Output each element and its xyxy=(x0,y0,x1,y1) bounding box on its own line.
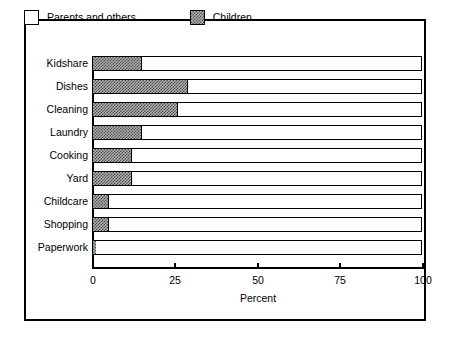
bar-track-parents xyxy=(92,240,422,255)
bar-track-parents xyxy=(92,194,422,209)
bar-segment-children xyxy=(93,126,142,139)
x-tick-mark-25 xyxy=(174,263,176,269)
bar-track-parents xyxy=(92,56,422,71)
x-axis-title: Percent xyxy=(92,292,424,304)
bar-segment-children xyxy=(93,57,142,70)
legend-label-parents: Parents and others xyxy=(47,12,136,23)
bar-segment-children xyxy=(93,149,132,162)
plot-area xyxy=(92,56,422,265)
x-axis-ticks: 0 25 50 75 100 xyxy=(92,269,424,291)
bar-track-parents xyxy=(92,171,422,186)
y-label-paperwork: Paperwork xyxy=(18,240,88,255)
y-label-yard: Yard xyxy=(18,171,88,186)
y-label-laundry: Laundry xyxy=(18,125,88,140)
y-label-cooking: Cooking xyxy=(18,148,88,163)
bar-segment-children xyxy=(93,80,188,93)
bar-row xyxy=(92,56,422,71)
legend-label-children: Children xyxy=(213,12,252,23)
bar-track-parents xyxy=(92,217,422,232)
x-tick-label-50: 50 xyxy=(252,274,264,286)
y-label-cleaning: Cleaning xyxy=(18,102,88,117)
x-tick-label-0: 0 xyxy=(90,274,96,286)
x-tick-label-100: 100 xyxy=(414,274,432,286)
bar-segment-children xyxy=(93,195,109,208)
legend-swatch-children-icon xyxy=(190,10,205,25)
bar-row xyxy=(92,171,422,186)
bar-row xyxy=(92,194,422,209)
bar-track-parents xyxy=(92,79,422,94)
x-tick-mark-100 xyxy=(422,263,424,269)
x-tick-label-75: 75 xyxy=(334,274,346,286)
x-tick-label-25: 25 xyxy=(169,274,181,286)
bar-track-parents xyxy=(92,125,422,140)
bar-track-parents xyxy=(92,102,422,117)
bar-segment-children xyxy=(93,172,132,185)
chart-legend: Parents and others Children xyxy=(24,8,364,26)
y-label-childcare: Childcare xyxy=(18,194,88,209)
x-tick-mark-50 xyxy=(257,263,259,269)
bar-segment-children xyxy=(93,241,96,254)
bar-row xyxy=(92,102,422,117)
bar-row xyxy=(92,148,422,163)
bar-segment-children xyxy=(93,103,178,116)
legend-entry-children: Children xyxy=(190,10,252,25)
bar-row xyxy=(92,240,422,255)
legend-entry-parents: Parents and others xyxy=(24,10,136,25)
stacked-bar-chart-figure: Parents and others Children Kidshare Dis… xyxy=(0,0,451,344)
bar-track-parents xyxy=(92,148,422,163)
y-label-dishes: Dishes xyxy=(18,79,88,94)
x-tick-mark-75 xyxy=(339,263,341,269)
bar-row xyxy=(92,217,422,232)
bar-row xyxy=(92,79,422,94)
x-tick-mark-0 xyxy=(92,263,94,269)
legend-swatch-parents-icon xyxy=(24,10,39,25)
y-label-shopping: Shopping xyxy=(18,217,88,232)
bar-segment-children xyxy=(93,218,109,231)
y-label-kidshare: Kidshare xyxy=(18,56,88,71)
bar-row xyxy=(92,125,422,140)
y-axis-category-labels: Kidshare Dishes Cleaning Laundry Cooking… xyxy=(16,56,88,265)
